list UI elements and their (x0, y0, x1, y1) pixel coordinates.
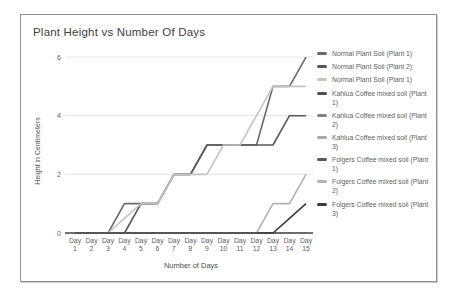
series-line-3 (75, 86, 306, 233)
legend-label: Kahlua Coffee mixed soil (Plant 1) (332, 89, 432, 107)
legend-marker (317, 78, 327, 81)
legend-item: Normal Plant Soil (Plant 2) (317, 62, 435, 71)
legend-item: Folgers Coffee mixed soil (Plant 3) (317, 200, 435, 218)
y-tick-label: 4 (47, 111, 61, 120)
legend-label: Normal Plant Soil (Plant 2) (332, 62, 432, 71)
legend-marker (317, 92, 327, 95)
y-tick-label: 6 (47, 53, 61, 62)
legend-label: Folgers Coffee mixed soil (Plant 2) (332, 177, 432, 195)
legend-label: Folgers Coffee mixed soil (Plant 1) (332, 155, 432, 173)
x-axis-title: Number of Days (75, 261, 307, 270)
legend-item: Kahlua Coffee mixed soil (Plant 1) (317, 89, 435, 107)
legend-label: Normal Plant Soil (Plant 1) (332, 49, 432, 58)
y-tick-label: 2 (47, 170, 61, 179)
y-tick-label: 0 (47, 229, 61, 238)
legend-item: Folgers Coffee mixed soil (Plant 1) (317, 155, 435, 173)
legend-marker (317, 203, 327, 206)
legend-label: Folgers Coffee mixed soil (Plant 3) (332, 200, 432, 218)
legend-item: Normal Plant Soil (Plant 1) (317, 49, 435, 58)
y-axis-title: Height in Centimeters (34, 117, 41, 184)
legend-marker (317, 136, 327, 139)
legend-marker (317, 114, 327, 117)
legend-marker (317, 158, 327, 161)
legend-item: Kahlua Coffee mixed soil (Plant 3) (317, 133, 435, 151)
legend-marker (317, 52, 327, 55)
legend-label: Kahlua Coffee mixed soil (Plant 2) (332, 111, 432, 129)
chart-card: Plant Height vs Number Of Days 0246 Day1… (20, 14, 437, 282)
series-line-8 (75, 174, 306, 233)
legend-item: Folgers Coffee mixed soil (Plant 2) (317, 177, 435, 195)
legend-marker (317, 65, 327, 68)
legend-label: Kahlua Coffee mixed soil (Plant 3) (332, 133, 432, 151)
legend: Normal Plant Soil (Plant 1)Normal Plant … (317, 49, 435, 218)
legend-label: Normal Plant Soil (Plant 1) (332, 75, 432, 84)
legend-item: Normal Plant Soil (Plant 1) (317, 75, 435, 84)
legend-marker (317, 180, 327, 183)
legend-item: Kahlua Coffee mixed soil (Plant 2) (317, 111, 435, 129)
x-tick-label: Day15 (295, 237, 317, 252)
